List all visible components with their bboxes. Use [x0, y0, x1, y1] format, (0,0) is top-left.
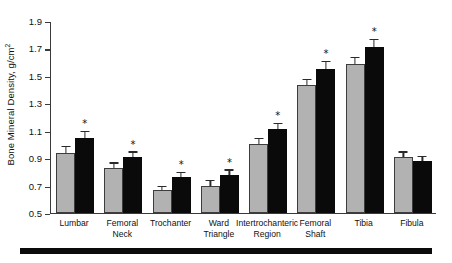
- significance-marker: *: [323, 50, 328, 58]
- x-axis-labels: LumbarFemoralNeckTrochanterWardTriangleI…: [50, 218, 436, 248]
- error-bar: [374, 40, 375, 47]
- bar-gray: [201, 186, 220, 213]
- error-bar-cap: [370, 39, 379, 40]
- error-bar-cap: [80, 131, 89, 132]
- bar-black: *: [172, 177, 191, 213]
- error-bar-cap: [321, 61, 330, 62]
- error-bar: [403, 153, 404, 157]
- error-bar-cap: [177, 172, 186, 173]
- bar-gray: [297, 85, 316, 213]
- x-axis-label-line: Shaft: [278, 229, 353, 240]
- y-axis-tick-label: 1.7: [12, 43, 42, 54]
- y-axis-tick: [45, 132, 50, 133]
- error-bar: [355, 58, 356, 63]
- x-axis-label-line: Neck: [85, 229, 160, 240]
- error-bar-cap: [418, 156, 427, 157]
- error-bar-cap: [61, 146, 70, 147]
- y-axis-tick: [45, 187, 50, 188]
- bar-series-container: *******: [51, 22, 436, 213]
- significance-marker: *: [82, 120, 87, 128]
- bar-gray: [394, 157, 413, 213]
- y-axis-tick-label: 1.1: [12, 126, 42, 137]
- y-axis-tick-label: 0.7: [12, 181, 42, 192]
- significance-marker: *: [275, 112, 280, 120]
- y-axis-tick: [45, 214, 50, 215]
- error-bar: [277, 124, 278, 129]
- y-axis-tick-label: 1.9: [12, 16, 42, 27]
- x-axis-label-line: Fibula: [374, 218, 449, 229]
- error-bar: [162, 187, 163, 190]
- y-axis-tick: [45, 49, 50, 50]
- bar-gray: [56, 153, 75, 213]
- significance-marker: *: [130, 141, 135, 149]
- y-axis-tick-label: 1.3: [12, 98, 42, 109]
- bar-gray: [153, 190, 172, 213]
- error-bar: [422, 157, 423, 161]
- error-bar-cap: [399, 151, 408, 152]
- error-bar-cap: [158, 186, 167, 187]
- error-bar: [181, 173, 182, 177]
- bar-group: *: [341, 22, 389, 213]
- bar-group: *: [244, 22, 292, 213]
- error-bar-cap: [128, 151, 137, 152]
- error-bar-cap: [302, 79, 311, 80]
- y-axis-title-superscript: 2: [4, 44, 11, 48]
- error-bar-cap: [109, 162, 118, 163]
- error-bar-cap: [273, 123, 282, 124]
- bar-group: *: [51, 22, 99, 213]
- error-bar-cap: [206, 180, 215, 181]
- y-axis-tick: [45, 159, 50, 160]
- error-bar: [132, 153, 133, 157]
- error-bar-cap: [351, 57, 360, 58]
- significance-marker: *: [179, 161, 184, 169]
- error-bar: [229, 171, 230, 175]
- y-axis-tick-label: 0.9: [12, 153, 42, 164]
- bar-gray: [249, 144, 268, 213]
- significance-marker: *: [372, 28, 377, 36]
- bar-group: *: [292, 22, 340, 213]
- bone-mineral-density-figure: Bone Mineral Density, g/cm2 0.50.70.91.1…: [0, 0, 452, 263]
- bar-black: *: [316, 69, 335, 213]
- error-bar: [65, 147, 66, 152]
- bar-group: *: [99, 22, 147, 213]
- error-bar: [210, 181, 211, 185]
- y-axis-tick: [45, 77, 50, 78]
- error-bar: [113, 164, 114, 168]
- error-bar: [258, 139, 259, 144]
- error-bar: [84, 132, 85, 137]
- error-bar: [325, 62, 326, 69]
- bar-group: *: [196, 22, 244, 213]
- bar-black: *: [220, 175, 239, 213]
- plot-area: 0.50.70.91.11.31.51.71.9 *******: [50, 22, 436, 214]
- bar-group: *: [148, 22, 196, 213]
- bar-group: [389, 22, 437, 213]
- bar-gray: [104, 168, 123, 213]
- error-bar-cap: [254, 138, 263, 139]
- bar-black: *: [365, 47, 384, 213]
- x-axis-label: Fibula: [374, 218, 449, 229]
- error-bar: [306, 80, 307, 85]
- y-axis-tick-label: 1.5: [12, 71, 42, 82]
- y-axis-tick: [45, 104, 50, 105]
- significance-marker: *: [227, 159, 232, 167]
- y-axis-tick: [45, 22, 50, 23]
- bar-black: *: [123, 157, 142, 213]
- bar-gray: [346, 64, 365, 213]
- bottom-rule: [20, 248, 432, 254]
- error-bar-cap: [225, 169, 234, 170]
- bar-black: *: [75, 138, 94, 213]
- bar-black: [413, 161, 432, 213]
- bar-black: *: [268, 129, 287, 213]
